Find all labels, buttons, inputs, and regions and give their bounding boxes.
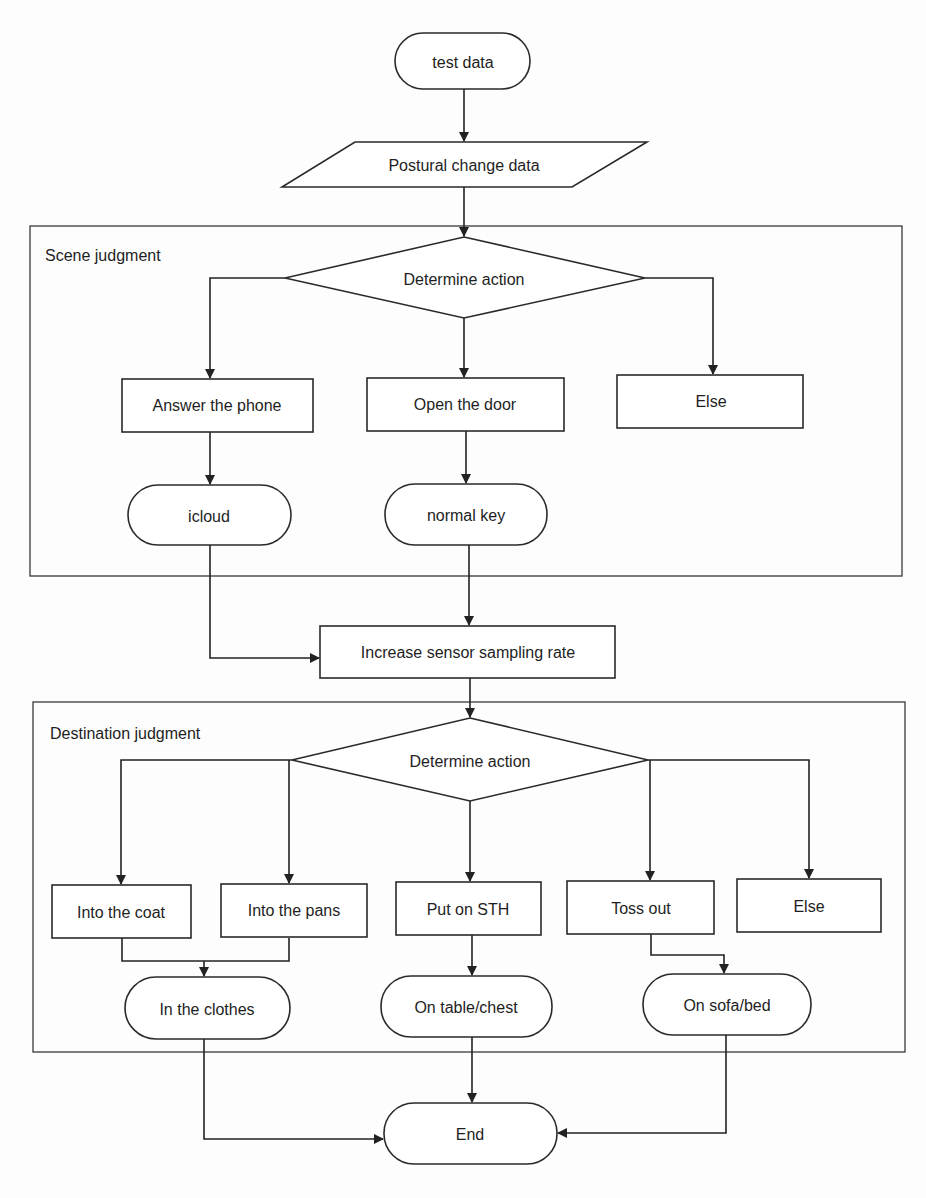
edge-coat-pans-merge [122, 938, 289, 961]
toss-out-label: Toss out [611, 900, 671, 917]
scene-judgment-label: Scene judgment [45, 247, 161, 264]
input-parallelogram[interactable]: Postural change data [282, 142, 647, 187]
edge-sofa-to-end [558, 1035, 726, 1133]
edge-decision-to-into-coat [121, 760, 292, 884]
edge-decision-to-answer-phone [210, 278, 285, 378]
start-terminator[interactable]: test data [395, 33, 530, 89]
destination-decision-diamond[interactable]: Determine action [292, 718, 648, 801]
on-table-label: On table/chest [414, 999, 518, 1016]
edge-decision-to-else [645, 278, 713, 374]
flowchart-canvas: Scene judgment Destination judgment test… [0, 0, 926, 1198]
toss-out-box[interactable]: Toss out [567, 881, 714, 934]
icloud-terminator[interactable]: icloud [128, 485, 291, 545]
destination-decision-label: Determine action [410, 753, 531, 770]
increase-sampling-box[interactable]: Increase sensor sampling rate [320, 626, 615, 678]
scene-else-box[interactable]: Else [617, 375, 803, 428]
edge-decision-to-else [648, 760, 809, 878]
on-sofa-terminator[interactable]: On sofa/bed [643, 974, 811, 1035]
into-coat-label: Into the coat [77, 904, 166, 921]
into-pans-box[interactable]: Into the pans [221, 884, 367, 937]
put-on-sth-label: Put on STH [427, 901, 510, 918]
normal-key-terminator[interactable]: normal key [385, 484, 547, 545]
answer-phone-label: Answer the phone [153, 397, 282, 414]
edge-icloud-to-increase [210, 545, 319, 658]
input-label: Postural change data [388, 157, 539, 174]
end-terminator[interactable]: End [384, 1103, 557, 1164]
on-sofa-label: On sofa/bed [683, 997, 770, 1014]
cropped-caption-area [245, 1193, 685, 1198]
scene-else-label: Else [695, 393, 726, 410]
edge-toss-out-to-sofa [651, 934, 724, 973]
normal-key-label: normal key [427, 507, 505, 524]
destination-judgment-label: Destination judgment [50, 725, 201, 742]
in-clothes-terminator[interactable]: In the clothes [125, 977, 290, 1039]
into-coat-box[interactable]: Into the coat [52, 885, 191, 938]
edge-clothes-to-end [204, 1039, 383, 1139]
icloud-label: icloud [188, 508, 230, 525]
open-door-label: Open the door [414, 396, 517, 413]
scene-decision-diamond[interactable]: Determine action [285, 237, 645, 318]
destination-else-box[interactable]: Else [737, 879, 881, 932]
into-pans-label: Into the pans [248, 902, 341, 919]
increase-sampling-label: Increase sensor sampling rate [361, 644, 575, 661]
scene-decision-label: Determine action [404, 271, 525, 288]
in-clothes-label: In the clothes [159, 1001, 254, 1018]
on-table-terminator[interactable]: On table/chest [381, 976, 552, 1037]
answer-phone-box[interactable]: Answer the phone [122, 379, 313, 432]
end-label: End [456, 1126, 484, 1143]
put-on-sth-box[interactable]: Put on STH [396, 882, 541, 935]
open-door-box[interactable]: Open the door [367, 378, 564, 431]
destination-else-label: Else [793, 898, 824, 915]
start-label: test data [432, 54, 493, 71]
